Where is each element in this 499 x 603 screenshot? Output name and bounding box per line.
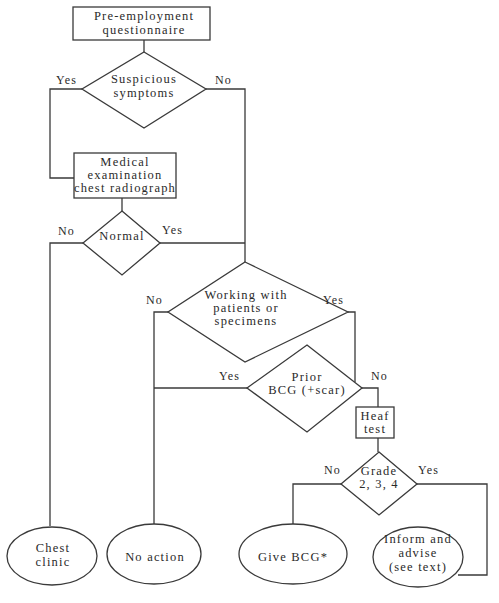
edge-label-yes: Yes [219,369,240,383]
node-text: Medical [100,155,149,169]
terminal-inform-and-advise: Inform and advise (see text) [373,527,463,587]
decision-prior-bcg: Prior BCG (+scar) [247,345,362,432]
decision-suspicious-symptoms: Suspicious symptoms [82,52,206,128]
node-text: Pre-employment [94,9,194,23]
decision-grade: Grade 2, 3, 4 [341,452,417,515]
node-text: Heaf [360,409,389,423]
node-text: test [364,422,386,436]
edge-label-no: No [146,293,163,307]
decision-normal: Normal [83,211,160,275]
connector-normal-no [50,243,83,526]
node-text: Grade [361,464,398,478]
node-medical-examination: Medical examination chest radiograph [74,153,176,198]
node-text: Inform and [384,532,452,546]
terminal-no-action: No action [107,524,201,584]
node-text: (see text) [389,560,447,574]
node-text: clinic [36,555,71,569]
node-text: Normal [99,229,144,243]
flowchart: Pre-employment questionnaire Suspicious … [0,0,499,603]
node-text: questionnaire [103,23,186,37]
node-text: symptoms [114,86,175,100]
terminal-chest-clinic: Chest clinic [7,527,97,585]
node-text: Suspicious [111,72,177,86]
node-pre-employment-questionnaire: Pre-employment questionnaire [73,7,210,40]
edge-label-yes: Yes [323,293,344,307]
connector-suspicious-no [206,89,245,262]
edge-label-yes: Yes [162,223,183,237]
edge-label-no: No [58,224,75,238]
edge-label-yes: Yes [418,463,439,477]
edge-label-no: No [324,463,341,477]
edge-label-yes: Yes [56,73,77,87]
node-text: 2, 3, 4 [359,477,399,491]
node-text: BCG (+scar) [268,383,346,397]
terminal-give-bcg: Give BCG* [239,524,347,584]
connector-working-yes [348,312,355,382]
node-text: examination [88,168,163,182]
decision-working-with-patients: Working with patients or specimens [168,262,348,362]
edge-label-no: No [371,369,388,383]
connector-working-no [154,312,168,524]
node-text: patients or [213,301,279,315]
node-text: Prior [292,370,323,384]
connector-prior-no [362,388,378,407]
node-text: Working with [204,288,287,302]
node-text: specimens [215,314,278,328]
node-text: Give BCG* [258,550,328,564]
edge-label-no: No [215,73,232,87]
node-heaf-test: Heaf test [356,407,394,438]
node-text: Chest [36,541,70,555]
node-text: chest radiograph [74,181,176,195]
node-text: No action [125,550,185,564]
connector-grade-no [293,484,341,524]
node-text: advise [398,546,437,560]
